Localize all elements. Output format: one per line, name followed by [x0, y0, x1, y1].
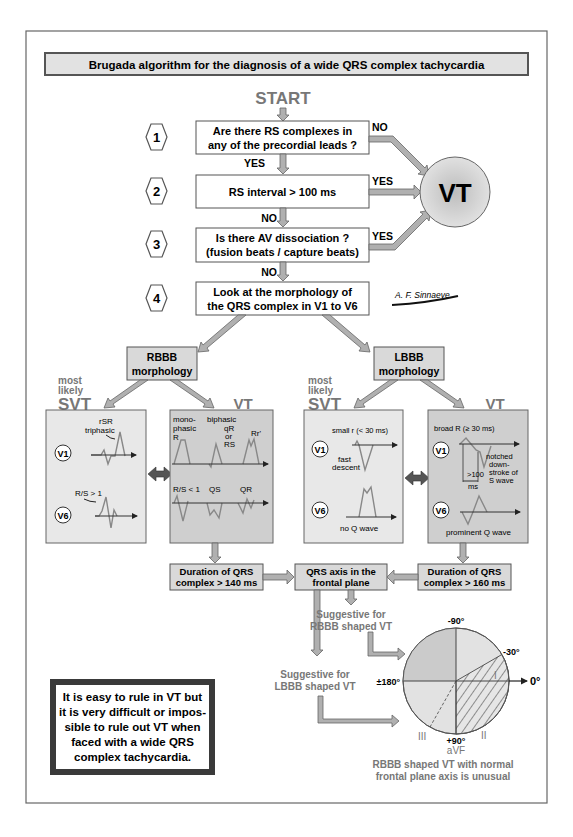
lead-v6-badge: V6 — [314, 506, 325, 516]
svg-text:phasic: phasic — [173, 424, 196, 433]
vt-circle: VT — [420, 157, 490, 227]
rbbb-vt-panel: mono- phasic R biphasic qR or RS Rr' R/S… — [170, 410, 273, 543]
svg-text:II: II — [481, 730, 487, 741]
svg-text:-30°: -30° — [503, 647, 520, 657]
rbbb-duration-box: Duration of QRS complex > 140 ms — [170, 564, 263, 590]
step-2-box: RS interval > 100 ms — [196, 175, 369, 208]
title-banner: Brugada algorithm for the diagnosis of a… — [45, 53, 528, 75]
svg-text:-90°: -90° — [448, 616, 465, 626]
suggestive-lbbb-label: Suggestive for LBBB shaped VT — [274, 669, 355, 692]
svg-text:RS: RS — [224, 440, 235, 449]
svg-text:rSR: rSR — [99, 417, 113, 426]
svg-text:(fusion beats / capture beats): (fusion beats / capture beats) — [206, 246, 359, 258]
step-1-box: Are there RS complexes in any of the pre… — [196, 121, 369, 154]
svg-text:VT: VT — [438, 178, 471, 208]
svg-text:0°: 0° — [530, 675, 541, 687]
svg-text:RBBB: RBBB — [147, 351, 178, 363]
svg-text:ms: ms — [468, 482, 478, 491]
svg-text:It is easy to rule in VT but: It is easy to rule in VT but — [63, 691, 202, 703]
step-4-box: Look at the morphology of the QRS comple… — [196, 282, 369, 315]
svg-text:triphasic: triphasic — [85, 426, 115, 435]
svg-text:morphology: morphology — [379, 365, 440, 377]
svg-text:3: 3 — [153, 237, 160, 252]
svg-text:1: 1 — [153, 130, 160, 145]
svg-text:R/S > 1: R/S > 1 — [75, 489, 102, 498]
svg-text:R/S < 1: R/S < 1 — [173, 485, 200, 494]
step-1-no-label: NO — [372, 121, 388, 133]
svg-text:the QRS complex in V1 to V6: the QRS complex in V1 to V6 — [207, 300, 357, 312]
svg-text:QS: QS — [209, 485, 221, 494]
svg-text:Look at the morphology of: Look at the morphology of — [213, 286, 352, 298]
step-2-no-label: NO — [261, 212, 277, 224]
svg-text:Duration of QRS: Duration of QRS — [180, 566, 254, 577]
svg-text:Is there AV dissociation ?: Is there AV dissociation ? — [216, 232, 350, 244]
rbbb-vt-header: VT — [233, 395, 252, 412]
svg-text:LBBB shaped VT: LBBB shaped VT — [274, 681, 355, 692]
qrs-axis-box: QRS axis in the frontal plane — [295, 564, 387, 590]
rbbb-morphology-box: RBBB morphology — [127, 347, 197, 380]
svg-text:RS interval > 100 ms: RS interval > 100 ms — [229, 186, 336, 198]
svg-text:QRS axis in the: QRS axis in the — [306, 566, 376, 577]
lead-v6-badge: V6 — [435, 506, 446, 516]
lbbb-duration-box: Duration of QRS complex > 160 ms — [418, 564, 511, 590]
step-1-hex: 1 — [146, 124, 167, 150]
svg-text:frontal plane: frontal plane — [312, 577, 369, 588]
step-3-no-label: NO — [261, 266, 277, 278]
svg-text:>100: >100 — [467, 470, 484, 479]
svg-text:descent: descent — [332, 463, 361, 472]
svg-text:morphology: morphology — [132, 365, 193, 377]
svg-text:Suggestive for: Suggestive for — [280, 669, 350, 680]
svg-text:complex tachycardia.: complex tachycardia. — [74, 751, 191, 763]
svg-text:aVF: aVF — [447, 745, 465, 756]
svg-text:±180°: ±180° — [376, 677, 400, 687]
step-2-hex: 2 — [146, 178, 167, 204]
svg-text:any of the precordial leads ?: any of the precordial leads ? — [208, 139, 357, 151]
svg-text:no Q wave: no Q wave — [340, 524, 379, 533]
svg-text:4: 4 — [153, 291, 161, 306]
svg-text:RBBB shaped VT with normal: RBBB shaped VT with normal — [372, 759, 513, 770]
step-3-yes-label: YES — [372, 230, 393, 242]
svg-text:faced with a wide QRS: faced with a wide QRS — [71, 736, 194, 748]
svg-text:R: R — [173, 433, 179, 442]
svg-text:QR: QR — [240, 485, 252, 494]
lbbb-vt-header: VT — [485, 395, 504, 412]
lead-v1-badge: V1 — [435, 446, 446, 456]
step-4-hex: 4 — [146, 285, 167, 311]
svg-text:sible to rule out VT when: sible to rule out VT when — [64, 721, 200, 733]
suggestive-rbbb-label: Suggestive for RBBB shaped VT — [310, 609, 392, 632]
svg-text:small r (< 30 ms): small r (< 30 ms) — [332, 426, 389, 435]
start-label: START — [255, 89, 311, 108]
page-title: Brugada algorithm for the diagnosis of a… — [89, 59, 485, 71]
lbbb-svt-panel: V1 small r (< 30 ms) fast descent V6 no … — [304, 410, 403, 543]
svg-text:Are there RS complexes in: Are there RS complexes in — [213, 125, 353, 137]
svg-text:III: III — [418, 731, 426, 742]
svg-text:RBBB shaped VT: RBBB shaped VT — [310, 621, 392, 632]
axis-note: RBBB shaped VT with normal frontal plane… — [372, 759, 513, 782]
svg-text:complex > 160 ms: complex > 160 ms — [424, 577, 506, 588]
svg-text:Duration of QRS: Duration of QRS — [428, 566, 502, 577]
lead-v1-badge: V1 — [314, 445, 325, 455]
svg-text:I: I — [494, 670, 497, 681]
lead-v1-badge: V1 — [57, 449, 68, 459]
step-3-hex: 3 — [146, 231, 167, 257]
step-3-box: Is there AV dissociation ? (fusion beats… — [196, 228, 369, 262]
svg-text:biphasic: biphasic — [207, 415, 236, 424]
svg-text:Rr': Rr' — [251, 429, 261, 438]
svg-text:broad R (≥ 30 ms): broad R (≥ 30 ms) — [434, 424, 495, 433]
svg-text:S wave: S wave — [489, 476, 514, 485]
svg-text:2: 2 — [153, 184, 160, 199]
svg-text:mono-: mono- — [173, 415, 196, 424]
lbbb-morphology-box: LBBB morphology — [374, 347, 444, 380]
step-2-yes-label: YES — [372, 175, 393, 187]
rule-box: It is easy to rule in VT but it is very … — [50, 679, 215, 775]
svg-text:complex > 140 ms: complex > 140 ms — [176, 577, 258, 588]
rbbb-svt-panel: V1 rSR triphasic V6 R/S > 1 — [46, 410, 146, 543]
svg-text:Suggestive for: Suggestive for — [316, 609, 386, 620]
svg-text:prominent Q wave: prominent Q wave — [446, 528, 511, 537]
brugada-diagram: Brugada algorithm for the diagnosis of a… — [0, 0, 573, 837]
lbbb-vt-panel: broad R (≥ 30 ms) V1 notched down- strok… — [428, 410, 528, 543]
step-1-yes-label: YES — [244, 157, 265, 169]
lead-v6-badge: V6 — [57, 511, 68, 521]
svg-text:frontal plane axis is unusual: frontal plane axis is unusual — [376, 771, 511, 782]
svg-text:LBBB: LBBB — [394, 351, 424, 363]
